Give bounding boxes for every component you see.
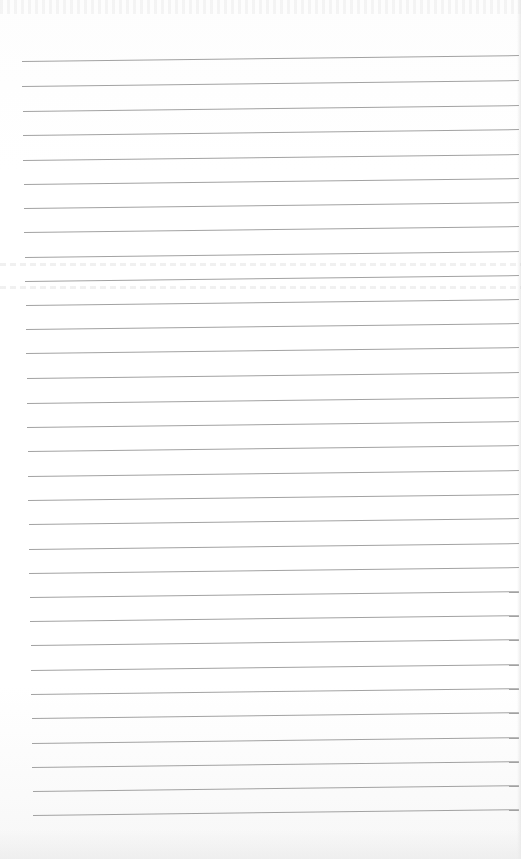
ruled-line bbox=[25, 251, 519, 258]
ruled-line bbox=[33, 785, 519, 792]
ruled-line bbox=[33, 809, 519, 816]
lined-paper-sheet bbox=[0, 0, 521, 859]
ruled-line bbox=[28, 470, 519, 477]
ruled-line bbox=[30, 615, 519, 622]
ruled-line bbox=[22, 80, 519, 87]
bleed-through-marks bbox=[0, 263, 521, 266]
bleed-through-marks bbox=[0, 286, 521, 289]
ruled-line bbox=[26, 299, 519, 306]
ruled-line bbox=[32, 761, 519, 768]
ruled-line bbox=[28, 445, 519, 452]
ruled-line bbox=[29, 543, 519, 550]
ruled-line bbox=[24, 178, 519, 185]
top-edge-bleed-through bbox=[0, 0, 521, 14]
ruled-line bbox=[30, 591, 519, 598]
ruled-line bbox=[31, 688, 519, 695]
ruled-line bbox=[29, 567, 519, 574]
bottom-edge-shading bbox=[0, 829, 521, 859]
ruled-line bbox=[27, 372, 519, 379]
ruled-line bbox=[23, 105, 519, 112]
ruled-line bbox=[28, 494, 519, 501]
ruled-line bbox=[31, 639, 519, 646]
ruled-line bbox=[23, 129, 519, 136]
ruled-line bbox=[24, 202, 519, 209]
ruled-line bbox=[29, 518, 519, 525]
ruled-line bbox=[24, 226, 518, 233]
ruled-line bbox=[32, 737, 519, 744]
ruled-line bbox=[27, 397, 519, 404]
ruled-line bbox=[26, 323, 519, 330]
ruled-line bbox=[22, 55, 519, 62]
ruled-line bbox=[31, 664, 519, 671]
ruled-line bbox=[27, 421, 519, 428]
ruled-line bbox=[23, 154, 519, 161]
ruled-line bbox=[25, 275, 519, 282]
ruled-line bbox=[26, 347, 519, 354]
ruled-line bbox=[32, 712, 519, 719]
